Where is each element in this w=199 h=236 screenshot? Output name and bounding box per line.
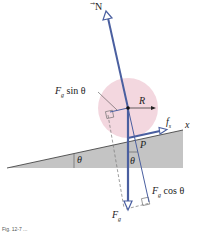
label-contact-point: P [140, 140, 146, 150]
label-gravity: Fg [112, 210, 121, 222]
label-x-axis: x [185, 120, 189, 130]
center-dot [126, 106, 130, 110]
figure-caption: Fig. 12-7 ... [2, 226, 27, 232]
label-vertical-angle: θ [130, 156, 135, 166]
label-incline-angle: θ [77, 155, 82, 165]
label-normal-force: ⃗N [95, 2, 102, 12]
normal-arrowhead-icon [103, 11, 112, 20]
label-fg-cos: Fg cos θ [152, 186, 184, 198]
label-fg-sin: Fg sin θ [55, 86, 86, 98]
label-friction: fs [166, 117, 171, 129]
label-radius: R [139, 96, 145, 106]
gravity-arrowhead-icon [124, 201, 132, 210]
